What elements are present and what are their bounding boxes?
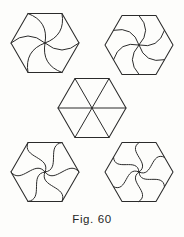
- hexagon-spoke: [135, 143, 142, 172]
- panel-top-left: [11, 14, 79, 73]
- panel-center: [58, 79, 126, 138]
- hexagon-spoke: [45, 14, 63, 43]
- hexagon-spoke: [139, 16, 146, 45]
- hexagon-spoke: [45, 168, 79, 176]
- panel-bottom-right: [105, 143, 173, 202]
- hexagon-spoke: [27, 43, 45, 72]
- hexagon-spoke: [75, 108, 92, 137]
- hexagon-spoke: [132, 45, 139, 74]
- hexagon-spoke: [139, 30, 165, 46]
- figure-plate: Fig. 60: [0, 0, 184, 237]
- panels-layer: [11, 14, 173, 202]
- hexagon-spoke: [44, 172, 63, 201]
- hexagon-spoke: [28, 14, 46, 43]
- hexagon-spoke: [45, 143, 62, 172]
- hexagon-spoke: [139, 172, 165, 187]
- hexagon-spoke: [45, 43, 79, 50]
- hexagon-spoke: [135, 172, 142, 201]
- figure-caption: Fig. 60: [0, 213, 184, 225]
- hexagon-spoke: [27, 143, 46, 172]
- hexagon-spoke: [11, 36, 45, 43]
- hexagon-spoke: [11, 168, 45, 176]
- hexagon-spoke: [92, 79, 109, 108]
- hexagon-spoke: [44, 43, 62, 72]
- hexagon-spoke: [114, 44, 140, 60]
- panel-top-right: [105, 16, 173, 75]
- hexagon-spoke: [92, 108, 109, 137]
- hexagon-spoke: [139, 45, 165, 61]
- hexagon-spoke: [28, 172, 45, 201]
- panel-bottom-left: [11, 143, 79, 202]
- hexagon-spoke: [114, 29, 140, 45]
- hexagon-spoke: [75, 79, 92, 108]
- hexagon-spoke: [114, 157, 140, 172]
- hexagon-plate-svg: [0, 0, 184, 237]
